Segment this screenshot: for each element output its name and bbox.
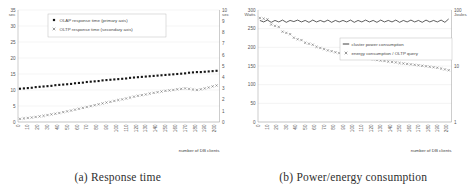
data-point [78,108,80,110]
data-point [78,82,80,84]
data-point [211,85,213,87]
y2-tick-label: 10 [454,64,460,69]
y-tick-label: 50 [250,101,256,106]
legend-label: OLTP response time (secondary axis) [60,27,134,32]
data-point [35,86,37,88]
legend-label: cluster power consumption [351,42,404,47]
data-point [413,64,415,66]
y-tick-label: 0 [252,120,255,125]
data-point [432,66,434,68]
svg-text:20: 20 [274,124,279,130]
svg-text:0: 0 [255,124,260,127]
data-point [46,114,48,116]
data-point [54,84,56,86]
x-axis-title: number of DB clients [179,148,221,153]
x-tick-label: 130 [143,124,148,132]
x-tick-label: 190 [434,124,439,132]
svg-text:180: 180 [425,124,430,132]
y-tick-label: 15 [10,72,16,77]
svg-text:40: 40 [55,124,60,130]
data-point [204,71,206,73]
y-tick-label: 30 [10,24,16,29]
data-point [394,61,396,63]
power-energy-plot: 050100150200250300Watts110100Joules01020… [236,0,471,162]
x-tick-label: 30 [283,124,288,130]
x-tick-label: 100 [349,124,354,132]
svg-text:20: 20 [35,124,40,130]
x-tick-label: 10 [265,124,270,130]
svg-text:120: 120 [368,124,373,132]
data-point [322,48,324,50]
data-point [447,69,449,71]
svg-text:140: 140 [387,124,392,132]
x-tick-label: 150 [397,124,402,132]
svg-text:90: 90 [104,124,109,130]
data-point [27,117,29,119]
data-point [277,26,279,28]
chart-power-energy: 050100150200250300Watts110100Joules01020… [236,0,471,162]
svg-text:100: 100 [114,124,119,132]
data-point [117,78,119,80]
data-point [58,84,60,86]
data-point [157,75,159,77]
data-point [98,80,100,82]
data-point [196,71,198,73]
data-point [129,77,131,79]
caption-a: (a) Response time [0,171,236,183]
data-point [288,33,290,35]
data-point [300,39,302,41]
y2-axis-unit: sec [222,12,230,17]
data-point [149,75,151,77]
svg-text:170: 170 [416,124,421,132]
data-point [70,109,72,111]
data-point [188,72,190,74]
y-tick-label: 250 [247,26,255,31]
data-point [97,103,99,105]
data-point [188,88,190,90]
data-point [160,90,162,92]
svg-text:70: 70 [84,124,89,130]
figure-row: 05101520253035sec012345678910sec01020304… [0,0,471,185]
x-tick-label: 200 [212,124,217,132]
data-point [192,71,194,73]
x-tick-label: 140 [153,124,158,132]
data-point [292,37,294,39]
data-point [443,68,445,70]
data-point [133,76,135,78]
legend-label: OLAP response time (primary axis) [60,18,129,23]
data-point [270,23,272,25]
data-point [387,60,389,62]
svg-text:90: 90 [340,124,345,130]
x-tick-label: 20 [35,124,40,130]
y-tick-label: 20 [10,56,16,61]
svg-text:10: 10 [25,124,30,130]
data-point [296,38,298,40]
x-tick-label: 10 [25,124,30,130]
data-point [109,101,111,103]
x-tick-label: 150 [163,124,168,132]
y-axis-unit: sec [9,12,17,17]
data-point [421,65,423,67]
data-point [208,86,210,88]
x-tick-label: 0 [16,124,21,127]
data-point [66,83,68,85]
data-point [145,93,147,95]
svg-text:200: 200 [444,124,449,132]
data-point [23,117,25,119]
data-point [330,50,332,52]
data-point [74,82,76,84]
x-tick-label: 80 [94,124,99,130]
svg-text:160: 160 [406,124,411,132]
data-point [43,85,45,87]
data-point [184,87,186,89]
data-point [152,92,154,94]
x-tick-label: 130 [378,124,383,132]
x-tick-label: 180 [193,124,198,132]
x-tick-label: 170 [416,124,421,132]
data-point [141,76,143,78]
data-point [192,88,194,90]
data-point [19,88,21,90]
data-point [307,43,309,45]
x-tick-label: 90 [104,124,109,130]
y2-tick-label: 4 [222,75,225,80]
